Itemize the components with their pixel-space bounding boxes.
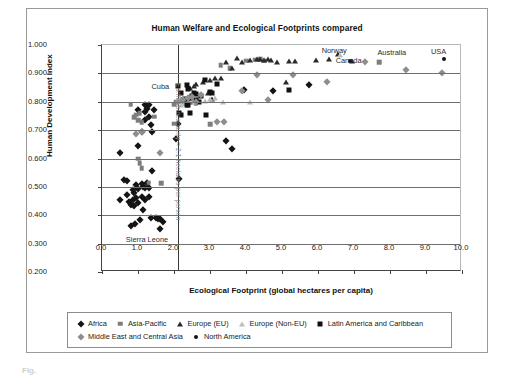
- x-axis-tick-label: 5.0: [276, 243, 287, 252]
- data-point: [223, 137, 230, 144]
- biocapacity-annotation-label: Earth's biocapacity = 2.1 hectares per p…: [175, 83, 182, 220]
- data-point: [202, 77, 207, 82]
- x-axis-tick-label: 0.0: [96, 243, 107, 252]
- gridline-horizontal: [102, 130, 460, 131]
- data-point: [193, 82, 199, 87]
- x-axis-tick-mark: [426, 270, 427, 274]
- data-point: [152, 114, 157, 119]
- data-point: [188, 110, 193, 115]
- country-annotation-label: USA: [431, 47, 446, 56]
- data-point: [289, 71, 296, 78]
- data-point: [212, 96, 218, 101]
- x-axis-tick-mark: [282, 270, 283, 274]
- y-axis-tick-label: 0.300: [0, 238, 47, 247]
- square-gray-icon: [116, 319, 125, 328]
- data-point: [377, 60, 382, 65]
- data-point: [147, 121, 154, 128]
- figure-frame: Human Welfare and Ecological Footprints …: [26, 8, 488, 353]
- y-axis-tick-label: 0.500: [0, 181, 47, 190]
- x-axis-tick-mark: [246, 270, 247, 274]
- y-axis-tick-label: 0.600: [0, 153, 47, 162]
- data-point: [147, 180, 152, 185]
- country-annotation-label: Cuba: [151, 81, 169, 90]
- figure-caption: Fig.: [22, 366, 36, 375]
- legend-item[interactable]: Europe (Non-EU): [238, 319, 307, 328]
- y-axis-tick-mark: [98, 102, 102, 103]
- legend-label: Europe (Non-EU): [250, 319, 307, 328]
- y-axis-tick-label: 0.800: [0, 96, 47, 105]
- legend-row: AfricaAsia-PacificEurope (EU)Europe (Non…: [76, 317, 443, 330]
- data-point: [228, 145, 235, 152]
- y-axis-tick-label: 0.900: [0, 68, 47, 77]
- x-axis-tick-label: 8.0: [384, 243, 395, 252]
- data-point: [138, 161, 143, 166]
- data-point: [186, 103, 191, 108]
- data-point: [239, 60, 245, 65]
- chart-legend: AfricaAsia-PacificEurope (EU)Europe (Non…: [67, 312, 452, 348]
- data-point: [305, 81, 312, 88]
- y-axis-tick-label: 0.400: [0, 210, 47, 219]
- x-axis-tick-label: 4.0: [240, 243, 251, 252]
- data-point: [269, 87, 276, 94]
- x-axis-tick-mark: [318, 270, 319, 274]
- data-point: [253, 71, 260, 78]
- data-point: [204, 113, 209, 118]
- legend-item[interactable]: Middle East and Central Asia: [76, 332, 183, 341]
- x-axis-tick-mark: [138, 270, 139, 274]
- x-axis-tick-label: 6.0: [312, 243, 323, 252]
- data-point: [218, 75, 224, 80]
- data-point: [247, 57, 253, 62]
- data-point: [186, 86, 191, 91]
- data-point: [156, 149, 163, 156]
- x-axis-tick-mark: [102, 270, 103, 274]
- x-axis-tick-label: 9.0: [420, 243, 431, 252]
- plot-inner: Earth's biocapacity = 2.1 hectares per p…: [102, 45, 460, 270]
- data-point: [124, 178, 131, 185]
- data-point: [138, 111, 143, 116]
- legend-item[interactable]: Asia-Pacific: [116, 319, 167, 328]
- data-point: [149, 128, 156, 135]
- legend-label: Latin America and Caribbean: [328, 319, 423, 328]
- x-axis-tick-label: 7.0: [348, 243, 359, 252]
- data-point: [116, 196, 123, 203]
- diamond-dark-icon: [76, 319, 85, 328]
- y-axis-tick-label: 0.700: [0, 125, 47, 134]
- legend-label: Africa: [88, 319, 107, 328]
- plot-area: Earth's biocapacity = 2.1 hectares per p…: [101, 44, 461, 271]
- circle-dark-icon: [192, 332, 201, 341]
- data-point: [326, 57, 332, 62]
- data-point: [274, 60, 280, 65]
- data-point: [442, 57, 446, 61]
- data-point: [134, 143, 141, 150]
- gridline-horizontal: [102, 159, 460, 160]
- y-axis-tick-label: 0.200: [0, 267, 47, 276]
- data-point: [149, 167, 156, 174]
- legend-label: Europe (EU): [188, 319, 229, 328]
- y-axis-tick-label: 1.000: [0, 40, 47, 49]
- legend-item[interactable]: Africa: [76, 319, 107, 328]
- triangle-light-icon: [238, 319, 247, 328]
- legend-item[interactable]: Europe (EU): [176, 319, 229, 328]
- gridline-horizontal: [102, 187, 460, 188]
- data-point: [229, 66, 235, 71]
- data-point: [287, 87, 292, 92]
- data-point: [139, 120, 144, 125]
- data-point: [292, 58, 298, 63]
- x-axis-tick-mark: [210, 270, 211, 274]
- country-annotation-label: Norway: [322, 46, 347, 55]
- x-axis-tick-label: 10.0: [454, 243, 469, 252]
- data-point: [156, 225, 163, 232]
- data-point: [129, 102, 134, 107]
- data-point: [264, 97, 271, 104]
- legend-item[interactable]: North America: [192, 332, 251, 341]
- data-point: [209, 90, 214, 95]
- legend-item[interactable]: Latin America and Caribbean: [316, 319, 423, 328]
- data-point: [221, 118, 228, 125]
- x-axis-tick-label: 2.0: [168, 243, 179, 252]
- country-annotation-label: Australia: [377, 48, 406, 57]
- data-point: [215, 82, 220, 87]
- data-point: [116, 150, 123, 157]
- legend-label: Middle East and Central Asia: [88, 332, 183, 341]
- gridline-horizontal: [102, 73, 460, 74]
- data-point: [361, 58, 368, 65]
